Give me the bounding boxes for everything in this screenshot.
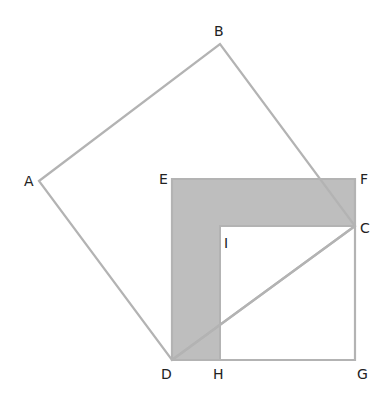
diagram-canvas: A B C D E F G H I [0, 0, 388, 394]
label-c: C [360, 220, 370, 236]
shaded-gnomon [172, 179, 355, 360]
label-e: E [159, 171, 168, 187]
label-g: G [357, 366, 368, 382]
label-b: B [214, 23, 224, 39]
label-i: I [224, 235, 228, 251]
label-f: F [360, 171, 368, 187]
label-d: D [161, 366, 172, 382]
label-h: H [213, 366, 224, 382]
label-a: A [24, 173, 34, 189]
geometry-diagram: A B C D E F G H I [0, 0, 388, 394]
